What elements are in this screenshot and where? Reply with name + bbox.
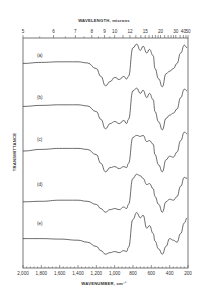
ir-spectra-chart: WAVELENGTH, microns 5678910121520304050 … [0, 0, 209, 306]
spectrum-curve-d [23, 174, 187, 212]
bottom-tick-label: 1,600 [54, 271, 66, 276]
top-tick-label: 9 [103, 29, 106, 34]
bottom-axis-title: WAVENUMBER, cm⁻¹ [81, 281, 127, 286]
spectra-curves [23, 44, 187, 254]
plot-frame [23, 38, 188, 268]
series-labels: (a)(b)(c)(d)(e) [37, 53, 43, 226]
top-axis-title: WAVELENGTH, microns [78, 18, 130, 23]
bottom-tick-label: 1,200 [91, 271, 103, 276]
bottom-tick-label: 2,000 [17, 271, 29, 276]
top-tick-label: 12 [127, 29, 133, 34]
bottom-tick-label: 1,000 [109, 271, 121, 276]
series-label: (a) [37, 53, 43, 58]
top-tick-label: 30 [173, 29, 179, 34]
top-tick-label: 15 [143, 29, 149, 34]
spectrum-curve-e [23, 213, 187, 255]
top-tick-label: 50 [185, 29, 191, 34]
bottom-tick-label: 1,800 [36, 271, 48, 276]
top-tick-label: 10 [112, 29, 118, 34]
bottom-tick-label: 200 [184, 271, 192, 276]
series-label: (c) [37, 137, 43, 142]
bottom-tick-label: 600 [147, 271, 155, 276]
y-axis-title: TRANSMITTANCE [12, 133, 17, 171]
series-label: (e) [37, 221, 43, 226]
spectrum-curve-b [23, 88, 187, 130]
top-axis-ticks: 5678910121520304050 [22, 29, 191, 38]
top-tick-label: 5 [22, 29, 25, 34]
bottom-tick-label: 400 [166, 271, 174, 276]
top-tick-label: 20 [158, 29, 164, 34]
bottom-axis-ticks: 2,0001,8001,6001,4001,2001,0008006004002… [17, 265, 192, 276]
spectrum-curve-c [23, 132, 187, 172]
series-label: (d) [37, 182, 43, 187]
series-label: (b) [37, 95, 43, 100]
bottom-tick-label: 800 [129, 271, 137, 276]
top-tick-label: 8 [90, 29, 93, 34]
top-tick-label: 6 [52, 29, 55, 34]
spectrum-curve-a [23, 44, 187, 87]
bottom-tick-label: 1,400 [72, 271, 84, 276]
top-tick-label: 7 [74, 29, 77, 34]
